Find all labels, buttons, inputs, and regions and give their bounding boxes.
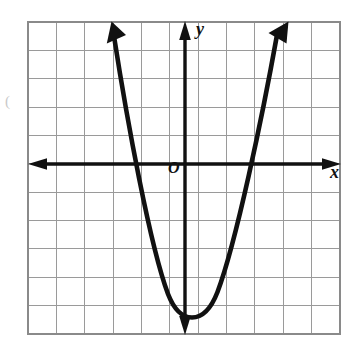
y-axis-label: y	[196, 20, 204, 38]
stray-scan-mark: (	[5, 93, 10, 110]
parabola-graph-figure	[0, 0, 362, 353]
origin-label: O	[168, 160, 180, 176]
figure-background	[0, 0, 362, 353]
x-axis-label: x	[330, 163, 339, 181]
